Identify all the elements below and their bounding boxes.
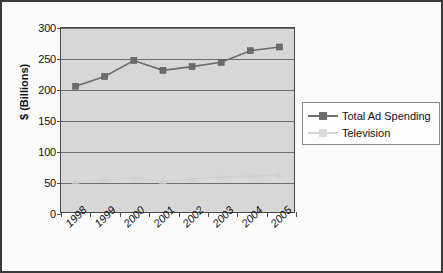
y-tick-label: 150 bbox=[38, 115, 56, 127]
chart-legend: Total Ad Spending Television bbox=[302, 102, 440, 145]
data-point bbox=[160, 67, 166, 73]
legend-swatch-television bbox=[308, 127, 338, 138]
x-tick-mark bbox=[120, 212, 121, 217]
x-tick-mark bbox=[179, 212, 180, 217]
y-tick-label: 50 bbox=[44, 177, 56, 189]
y-tick-label: 0 bbox=[50, 208, 56, 220]
series-total-ad-spending bbox=[73, 44, 283, 89]
legend-item-television: Television bbox=[308, 124, 434, 141]
y-tick-label: 300 bbox=[38, 22, 56, 34]
data-point bbox=[247, 48, 253, 54]
x-tick-mark bbox=[267, 212, 268, 217]
y-tick-label: 100 bbox=[38, 146, 56, 158]
data-point bbox=[130, 174, 138, 181]
x-tick-mark bbox=[296, 212, 297, 217]
data-point bbox=[102, 73, 108, 79]
legend-swatch-total-ad-spending bbox=[308, 110, 338, 121]
x-tick-mark bbox=[90, 212, 91, 217]
legend-item-total-ad-spending: Total Ad Spending bbox=[308, 107, 434, 124]
data-point bbox=[218, 59, 224, 65]
plot-area: 050100150200250300 bbox=[60, 27, 295, 213]
x-tick-mark bbox=[237, 212, 238, 217]
y-axis-title: $ (Billions) bbox=[18, 64, 30, 120]
x-tick-mark bbox=[149, 212, 150, 217]
legend-label-television: Television bbox=[342, 127, 390, 139]
data-point bbox=[189, 64, 195, 70]
y-tick-label: 200 bbox=[38, 84, 56, 96]
x-tick-mark bbox=[208, 212, 209, 217]
data-point bbox=[275, 171, 283, 178]
x-tick-mark bbox=[61, 212, 62, 217]
chart-figure: $ (Billions) 050100150200250300 19981999… bbox=[0, 0, 443, 273]
data-point bbox=[276, 44, 282, 50]
series-plot bbox=[61, 28, 294, 212]
data-point bbox=[131, 58, 137, 64]
data-point bbox=[73, 83, 79, 89]
y-tick-label: 250 bbox=[38, 53, 56, 65]
legend-label-total-ad-spending: Total Ad Spending bbox=[342, 110, 431, 122]
series-television bbox=[72, 171, 284, 184]
